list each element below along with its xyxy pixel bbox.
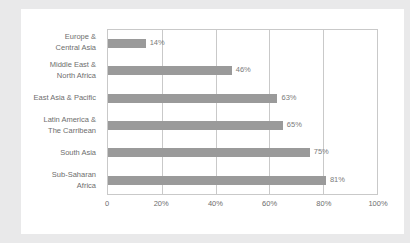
- category-label: East Asia & Pacific: [21, 84, 101, 112]
- x-tick-label: 0: [105, 200, 109, 208]
- x-tick-label: 60%: [262, 200, 277, 208]
- bar-value-label: 14%: [150, 39, 165, 47]
- category-label: Europe & Central Asia: [21, 29, 101, 57]
- x-tick-label: 80%: [316, 200, 331, 208]
- bar-value-label: 75%: [314, 148, 329, 156]
- x-tick-label: 40%: [208, 200, 223, 208]
- bar[interactable]: 46%: [108, 66, 232, 75]
- category-label: South Asia: [21, 140, 101, 168]
- bar-value-label: 63%: [281, 94, 296, 102]
- bar-value-label: 46%: [236, 66, 251, 74]
- page-background: Europe & Central Asia Middle East & Nort…: [0, 0, 410, 243]
- category-label: Latin America & The Carribean: [21, 112, 101, 140]
- chart-card: Europe & Central Asia Middle East & Nort…: [21, 9, 404, 234]
- bar[interactable]: 75%: [108, 148, 310, 157]
- category-label: Middle East & North Africa: [21, 57, 101, 85]
- bar-row: 81%: [108, 167, 377, 194]
- bar-row: 65%: [108, 112, 377, 139]
- category-label: Sub-Saharan Africa: [21, 167, 101, 195]
- plot-area: 14% 46% 63% 65%: [107, 29, 378, 195]
- bar-row: 75%: [108, 139, 377, 166]
- bar-row: 14%: [108, 30, 377, 57]
- bar[interactable]: 65%: [108, 121, 283, 130]
- bar-value-label: 65%: [287, 121, 302, 129]
- category-axis-labels: Europe & Central Asia Middle East & Nort…: [21, 29, 101, 195]
- bar-row: 46%: [108, 57, 377, 84]
- x-tick-label: 20%: [154, 200, 169, 208]
- bar-row: 63%: [108, 85, 377, 112]
- bar-series: 14% 46% 63% 65%: [108, 30, 377, 194]
- bar[interactable]: 81%: [108, 176, 326, 185]
- bar[interactable]: 63%: [108, 94, 277, 103]
- bar-value-label: 81%: [330, 176, 345, 184]
- x-axis-tick-labels: 0 20% 40% 60% 80% 100%: [107, 200, 378, 214]
- x-tick-label: 100%: [368, 200, 387, 208]
- bar[interactable]: 14%: [108, 39, 146, 48]
